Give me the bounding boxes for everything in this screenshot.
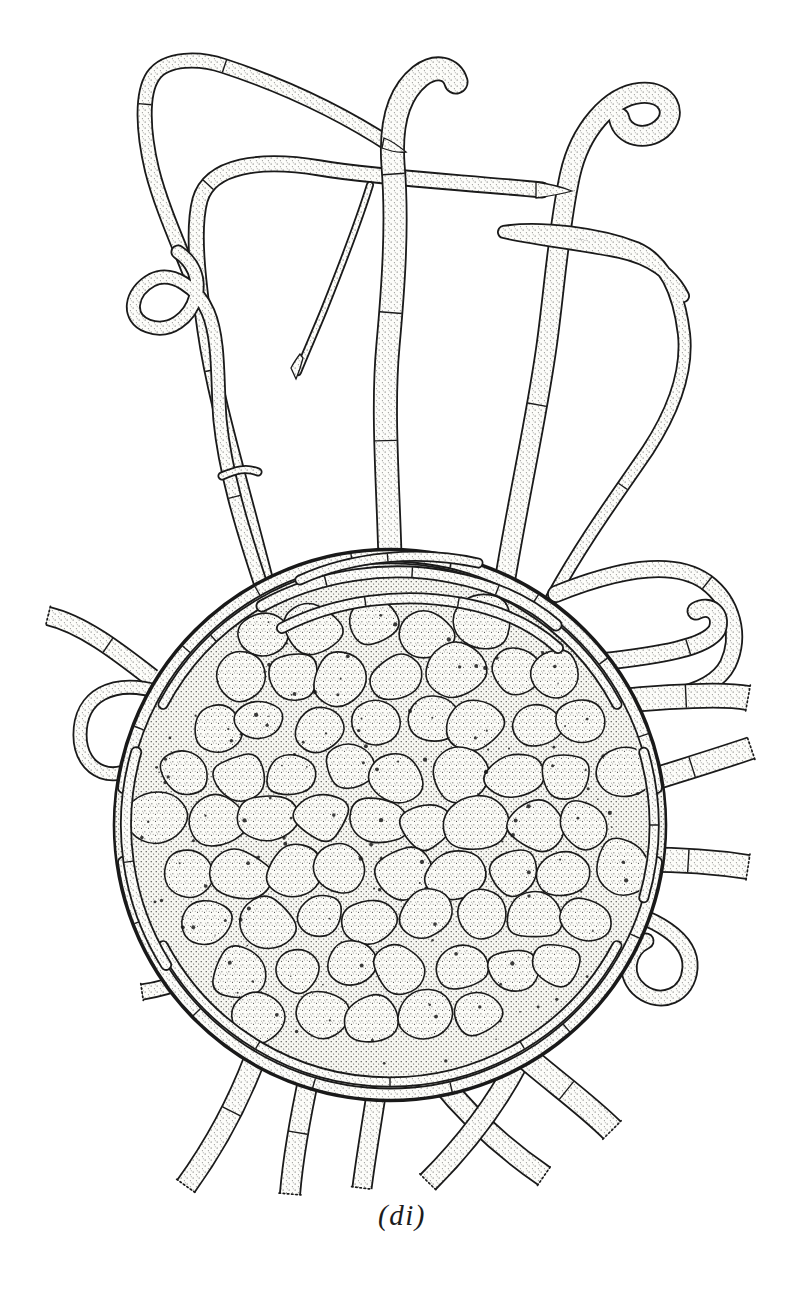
bottom-right-diagonal-tube	[520, 1052, 621, 1139]
figure-caption: (di)	[378, 1199, 426, 1232]
right-stub-curl	[600, 608, 719, 662]
right-tall-appendage	[505, 93, 670, 580]
left-wavy-loop-appendage	[133, 252, 262, 588]
top-left-hairpin-appendage	[139, 60, 392, 332]
thin-tapering-spur-tube	[298, 185, 370, 372]
illustration-page: (di)	[0, 0, 790, 1289]
overlay-layer	[262, 138, 572, 648]
left-open-tube	[46, 606, 152, 678]
illustration-svg	[0, 0, 790, 1289]
bottom-tube-1	[177, 1058, 255, 1193]
bottom-tube-2	[279, 1072, 310, 1195]
sphere-layer	[114, 549, 666, 1101]
pointed-tail-tip	[291, 354, 303, 379]
